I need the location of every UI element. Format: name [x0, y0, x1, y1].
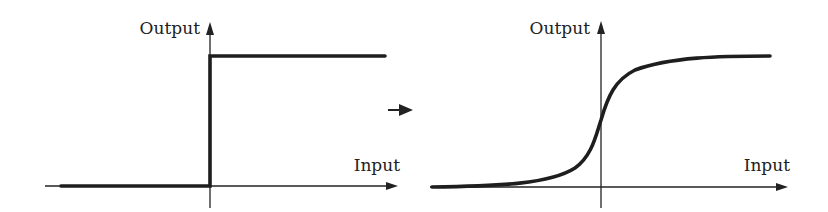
y-axis-arrow-icon — [597, 21, 605, 34]
y-axis-label: Output — [530, 18, 591, 38]
x-axis-arrow-icon — [776, 183, 788, 191]
step-panel: Output Input — [45, 18, 400, 208]
transition-arrow-icon — [388, 104, 413, 116]
y-axis-arrow-icon — [206, 22, 214, 35]
x-axis-label: Input — [744, 155, 790, 175]
y-axis-label: Output — [140, 18, 201, 38]
x-axis-label: Input — [354, 155, 400, 175]
diagram-canvas: Output Input Output Input — [0, 0, 828, 212]
step-curve — [61, 56, 385, 186]
x-axis-arrow-icon — [386, 182, 398, 190]
sigmoid-panel: Output Input — [430, 18, 790, 208]
